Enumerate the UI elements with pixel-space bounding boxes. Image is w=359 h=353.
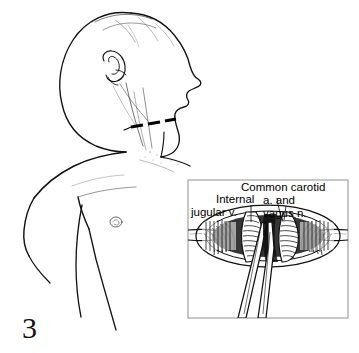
label-jugular-vein: jugular v. [191,206,237,219]
label-common-carotid: Common carotid [241,181,325,194]
label-artery-and: a. and [263,194,295,207]
illustration-canvas [0,0,359,353]
figure-number: 3 [22,313,37,343]
label-vagus-nerve: vagus n. [263,207,306,220]
wound-right-flap-hatch [304,220,328,252]
label-internal: Internal [216,193,254,206]
wound-left-flap-hatch [206,220,230,252]
surgical-figure: Common carotid a. and vagus n. Internal … [0,0,359,353]
